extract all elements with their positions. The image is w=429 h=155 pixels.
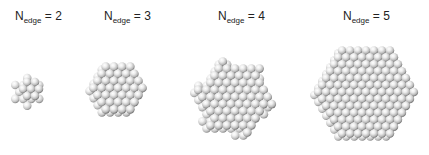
atom-sphere <box>101 105 110 114</box>
atom-sphere <box>23 102 32 111</box>
atom-cluster-nedge-3 <box>85 62 147 116</box>
atom-cluster-nedge-2 <box>11 74 44 110</box>
atom-sphere <box>370 129 379 138</box>
atom-cluster-nedge-5 <box>310 46 418 141</box>
atom-cluster-nedge-4 <box>190 57 276 140</box>
atom-sphere <box>231 121 240 130</box>
atom-sphere <box>267 100 276 109</box>
atom-sphere <box>346 129 355 138</box>
atom-sphere <box>338 129 347 138</box>
atom-clusters-drawing <box>0 0 429 155</box>
atom-sphere <box>31 92 40 101</box>
atom-sphere <box>11 95 20 104</box>
atom-sphere <box>214 121 223 130</box>
atom-sphere <box>206 121 215 130</box>
atom-sphere <box>378 129 387 138</box>
atom-sphere <box>110 105 119 114</box>
atom-sphere <box>23 92 32 101</box>
atom-sphere <box>118 105 127 114</box>
atom-sphere <box>354 129 363 138</box>
atom-sphere <box>243 128 252 137</box>
atom-sphere <box>386 129 395 138</box>
atom-sphere <box>126 105 135 114</box>
nanocluster-figure: Nedge = 2 Nedge = 3 Nedge = 4 Nedge = 5 <box>0 0 429 155</box>
atom-sphere <box>362 129 371 138</box>
atom-sphere <box>222 121 231 130</box>
atom-sphere <box>231 131 240 140</box>
